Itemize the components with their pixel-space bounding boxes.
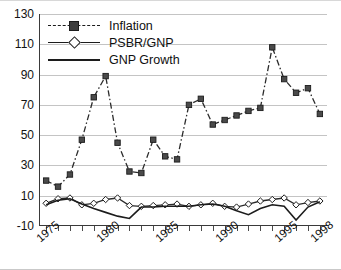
data-point-marker — [257, 198, 263, 204]
legend-label-inflation: Inflation — [109, 19, 153, 33]
data-point-marker — [103, 73, 108, 78]
legend-item-gnp-growth: GNP Growth — [48, 51, 198, 68]
series-line-gnp-growth — [46, 199, 320, 220]
legend-item-psbr-gnp: PSBR/GNP — [48, 34, 198, 51]
x-tick — [225, 226, 226, 233]
data-point-marker — [186, 102, 191, 107]
data-point-marker — [115, 140, 120, 145]
data-point-marker — [43, 178, 48, 183]
y-tick-label: 50 — [0, 128, 34, 142]
data-point-marker — [222, 117, 227, 122]
data-point-marker — [258, 105, 263, 110]
x-tick — [296, 226, 297, 231]
x-tick — [106, 226, 107, 233]
data-point-marker — [198, 96, 203, 101]
x-tick — [308, 226, 309, 231]
series-line-inflation — [46, 47, 320, 186]
chart-figure: -101030507090110130 19751980198519901995… — [0, 0, 341, 270]
data-point-marker — [91, 200, 97, 206]
x-tick — [129, 226, 130, 231]
x-tick — [46, 226, 47, 233]
data-point-marker — [270, 45, 275, 50]
data-point-marker — [234, 113, 239, 118]
x-tick — [213, 226, 214, 231]
x-tick — [320, 226, 321, 233]
x-tick — [153, 226, 154, 231]
data-point-marker — [305, 86, 310, 91]
data-point-marker — [127, 169, 132, 174]
y-tick-label: 130 — [0, 7, 34, 21]
legend-item-inflation: Inflation — [48, 17, 198, 34]
data-point-marker — [162, 154, 167, 159]
x-tick — [272, 226, 273, 231]
y-tick-label: 10 — [0, 189, 34, 203]
legend-key-dash-dot-square-icon — [48, 19, 100, 33]
data-point-marker — [126, 202, 132, 208]
x-tick — [118, 226, 119, 231]
data-point-marker — [102, 196, 108, 202]
data-point-marker — [139, 170, 144, 175]
x-tick — [237, 226, 238, 231]
y-tick-label: 110 — [0, 37, 34, 51]
y-tick-label: 30 — [0, 158, 34, 172]
data-point-marker — [246, 108, 251, 113]
x-tick — [201, 226, 202, 231]
x-tick — [82, 226, 83, 231]
data-point-marker — [269, 196, 275, 202]
legend-key-solid-plain-icon — [48, 53, 100, 67]
data-point-marker — [245, 201, 251, 207]
x-tick — [248, 226, 249, 231]
data-point-marker — [55, 184, 60, 189]
y-tick-label: 70 — [0, 98, 34, 112]
data-point-marker — [151, 137, 156, 142]
legend-label-gnp-growth: GNP Growth — [109, 53, 180, 67]
x-tick — [260, 226, 261, 231]
data-point-marker — [67, 172, 72, 177]
x-tick — [284, 226, 285, 233]
legend-key-solid-diamond-icon — [48, 36, 100, 50]
data-point-marker — [281, 195, 287, 201]
x-tick — [94, 226, 95, 231]
chart-legend: Inflation PSBR/GNP GNP Growth — [48, 17, 198, 68]
data-point-marker — [293, 90, 298, 95]
data-point-marker — [91, 95, 96, 100]
data-point-marker — [293, 202, 299, 208]
x-tick — [177, 226, 178, 231]
data-point-marker — [79, 137, 84, 142]
data-point-marker — [114, 195, 120, 201]
x-tick — [189, 226, 190, 231]
data-point-marker — [174, 157, 179, 162]
y-tick-label: 90 — [0, 68, 34, 82]
legend-label-psbr-gnp: PSBR/GNP — [109, 36, 174, 50]
x-tick — [58, 226, 59, 231]
data-point-marker — [210, 122, 215, 127]
x-tick — [165, 226, 166, 233]
data-point-marker — [281, 76, 286, 81]
data-point-marker — [305, 199, 311, 205]
y-tick-label: -10 — [0, 219, 34, 233]
x-tick — [70, 226, 71, 231]
data-point-marker — [317, 111, 322, 116]
x-tick — [141, 226, 142, 231]
